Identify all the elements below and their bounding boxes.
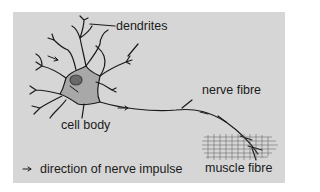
nerve-fibre-label: nerve fibre xyxy=(202,84,261,97)
nerve-fibre-line xyxy=(100,102,258,154)
cell-body-label: cell body xyxy=(61,119,110,132)
legend-text: direction of nerve impulse xyxy=(40,163,182,176)
cell-body-shape xyxy=(60,66,100,105)
muscle-fibre-grid xyxy=(202,134,278,160)
nucleus xyxy=(70,75,82,85)
dendrites-label: dendrites xyxy=(116,20,167,33)
muscle-fibre-label: muscle fibre xyxy=(205,162,272,175)
